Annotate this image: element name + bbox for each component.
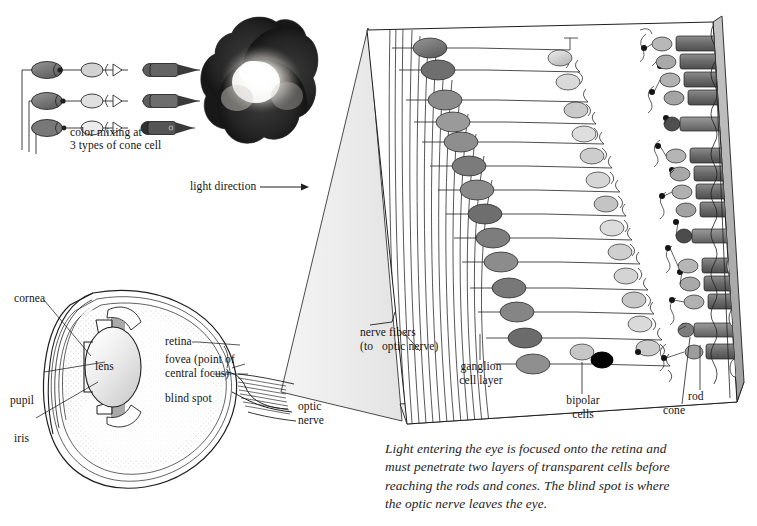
label-cornea: cornea: [14, 292, 45, 306]
label-lens: lens: [95, 360, 114, 374]
cone-mixing-caption-line1: color mixing at: [70, 126, 142, 140]
label-cone: cone: [663, 404, 685, 418]
cone-mixing-caption-line2: 3 types of cone cell: [70, 139, 161, 153]
label-rod: rod: [688, 390, 704, 404]
label-pupil: pupil: [10, 394, 34, 408]
label-optic-nerve-line2: nerve: [298, 414, 324, 428]
figure-caption: Light entering the eye is focused onto t…: [385, 440, 745, 514]
label-iris: iris: [14, 432, 29, 446]
label-bipolar-line2: cells: [550, 408, 616, 422]
label-ganglion-line2: cell layer: [446, 374, 516, 388]
label-nerve-fibers-line1: nerve fibers: [360, 326, 416, 340]
label-fovea-line1: fovea (point of: [165, 353, 235, 367]
label-bipolar-line1: bipolar: [550, 394, 616, 408]
light-direction-label: light direction: [190, 180, 256, 194]
blind-spot-cell: [591, 352, 613, 368]
label-nerve-fibers-line2: (to optic nerve): [360, 340, 438, 354]
label-fovea-line2: central focus): [165, 367, 229, 381]
retina-slab-art: [367, 16, 746, 424]
label-optic-nerve-line1: optic: [298, 400, 322, 414]
label-retina: retina: [165, 335, 192, 349]
label-ganglion-line1: ganglion: [446, 360, 516, 374]
light-direction-arrow: [260, 184, 309, 191]
figure-canvas: color mixing at 3 types of cone cell lig…: [0, 0, 757, 526]
eye-cross-section-art: [44, 290, 296, 488]
label-blind-spot: blind spot: [165, 392, 212, 406]
color-mixing-photograph: [195, 10, 334, 160]
